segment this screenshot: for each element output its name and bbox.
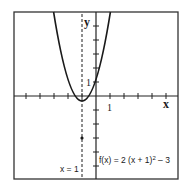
y-tick-label-1: 1: [86, 77, 91, 88]
vertex-point: [80, 136, 83, 139]
x-axis-label: x: [163, 97, 169, 111]
axis-of-symmetry-label: x = 1: [60, 164, 79, 174]
y-axis-label: y: [84, 15, 90, 29]
x-tick-label-1: 1: [107, 102, 112, 113]
function-label: f(x) = 2 (x + 1)2 – 3: [99, 155, 170, 166]
chart: y x 1 1 f(x) = 2 (x + 1)2 – 3 x = 1: [0, 0, 180, 184]
